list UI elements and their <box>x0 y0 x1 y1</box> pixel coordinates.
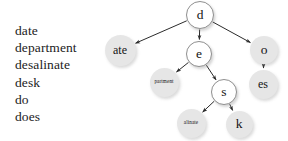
trie-node-alinate: alinate <box>177 109 206 138</box>
trie-node-ate: ate <box>105 35 136 66</box>
trie-edge-s-to-k <box>230 104 233 110</box>
trie-node-label: es <box>258 78 268 90</box>
trie-tree: dateeopartmentsesalinatek <box>0 0 288 141</box>
trie-node-label: e <box>196 47 202 61</box>
trie-edge-e-to-s <box>206 65 216 80</box>
trie-edge-root-to-o <box>213 22 251 43</box>
trie-node-e: e <box>186 41 212 67</box>
trie-edge-s-to-alinate <box>203 101 215 112</box>
trie-node-label: o <box>261 43 268 57</box>
trie-node-label: partment <box>154 79 173 84</box>
trie-node-es: es <box>249 70 278 99</box>
trie-node-label: alinate <box>184 120 199 125</box>
trie-node-label: k <box>236 117 243 131</box>
trie-node-label: d <box>197 8 204 22</box>
trie-node-o: o <box>250 36 278 64</box>
trie-figure: datedepartmentdesalinatedeskdodoes datee… <box>0 0 288 141</box>
trie-node-root: d <box>186 1 214 29</box>
trie-node-label: ate <box>113 44 127 56</box>
trie-node-k: k <box>226 111 253 138</box>
trie-node-partment: partment <box>150 68 179 97</box>
trie-node-label: s <box>221 85 226 99</box>
trie-edge-e-to-partment <box>176 62 188 72</box>
trie-edge-root-to-ate <box>136 21 187 43</box>
trie-node-s: s <box>211 79 237 105</box>
